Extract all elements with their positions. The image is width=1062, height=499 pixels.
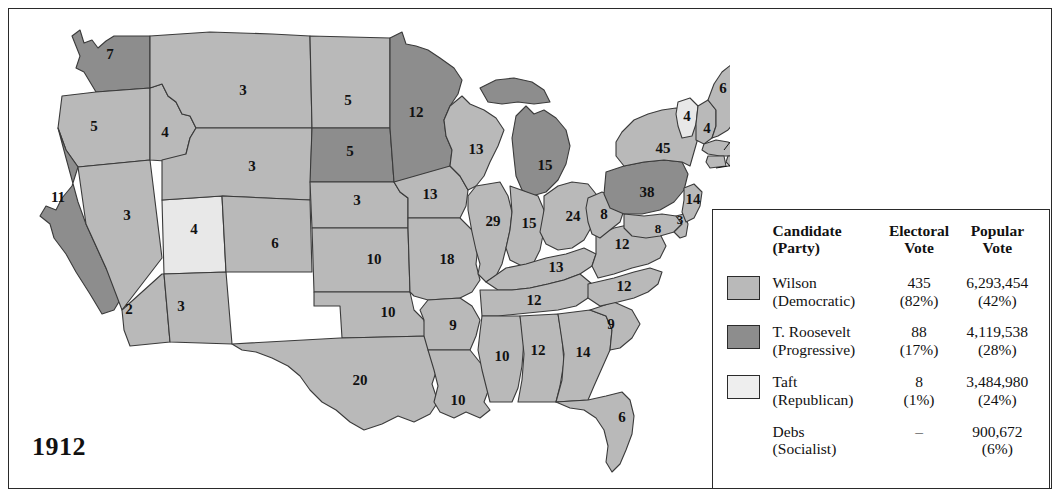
state-KS[interactable] bbox=[312, 228, 410, 292]
state-CT[interactable] bbox=[706, 156, 726, 168]
state-OK[interactable] bbox=[314, 292, 428, 338]
legend-electoral-roosevelt: 88 (17%) bbox=[882, 316, 955, 366]
legend-candidate-roosevelt: T. Roosevelt (Progressive) bbox=[769, 316, 883, 366]
legend-swatch-cell-debs bbox=[725, 416, 769, 466]
legend-popular-taft: 3,484,980 (24%) bbox=[956, 366, 1039, 416]
ev-WI: 13 bbox=[469, 141, 484, 157]
ev-NJ: 14 bbox=[686, 191, 702, 207]
legend-electoral-wilson: 435 (82%) bbox=[882, 267, 955, 317]
legend-popular-debs: 900,672 (6%) bbox=[956, 416, 1039, 466]
ev-DE: 3 bbox=[677, 212, 684, 227]
legend-candidate-taft: Taft (Republican) bbox=[769, 366, 883, 416]
legend-candidate-debs: Debs (Socialist) bbox=[769, 416, 883, 466]
ev-NH: 4 bbox=[703, 120, 711, 136]
ev-WA: 7 bbox=[106, 46, 114, 62]
ev-ND: 5 bbox=[344, 92, 352, 108]
ev-MO: 18 bbox=[440, 251, 455, 267]
state-OR[interactable] bbox=[58, 88, 150, 167]
ev-CA: 11 bbox=[51, 189, 65, 205]
taft-swatch-icon bbox=[727, 375, 760, 399]
legend-electoral-debs: – bbox=[882, 416, 955, 466]
legend-panel: Candidate (Party) Electoral Vote Popular… bbox=[712, 209, 1050, 489]
ev-FL: 6 bbox=[618, 409, 626, 425]
ev-WV: 8 bbox=[600, 206, 608, 222]
ev-NY: 45 bbox=[656, 140, 671, 156]
ev-KY: 13 bbox=[549, 259, 564, 275]
ev-CO: 6 bbox=[271, 235, 279, 251]
legend-popular-roosevelt: 4,119,538 (28%) bbox=[956, 316, 1039, 366]
legend-row-taft[interactable]: Taft (Republican) 8 (1%) 3,484,980 (24%) bbox=[725, 366, 1039, 416]
ev-LA: 10 bbox=[451, 392, 466, 408]
ev-NE: 3 bbox=[353, 192, 361, 208]
ev-IN: 15 bbox=[522, 215, 537, 231]
legend-popular-wilson: 6,293,454 (42%) bbox=[956, 267, 1039, 317]
ev-IL: 29 bbox=[486, 213, 501, 229]
ev-MN: 12 bbox=[409, 104, 424, 120]
ev-MS: 10 bbox=[495, 348, 510, 364]
ev-MT: 3 bbox=[239, 82, 247, 98]
year-label: 1912 bbox=[32, 432, 86, 462]
ev-NC: 12 bbox=[617, 278, 632, 294]
ev-NV: 3 bbox=[123, 207, 131, 223]
ev-KS: 10 bbox=[367, 251, 382, 267]
wilson-swatch-icon bbox=[727, 276, 760, 300]
state-CO[interactable] bbox=[222, 196, 312, 272]
state-ND[interactable] bbox=[310, 36, 390, 128]
legend-table: Candidate (Party) Electoral Vote Popular… bbox=[725, 222, 1039, 465]
ev-VT: 4 bbox=[683, 108, 691, 124]
ev-MD: 8 bbox=[655, 221, 662, 236]
roosevelt-swatch-icon bbox=[727, 325, 760, 349]
ev-OK: 10 bbox=[381, 304, 396, 320]
legend-header-swatch bbox=[725, 222, 769, 267]
ev-OR: 5 bbox=[90, 118, 98, 134]
ev-VA: 12 bbox=[615, 236, 630, 252]
ev-NM: 3 bbox=[177, 298, 185, 314]
legend-swatch-cell-wilson bbox=[725, 267, 769, 317]
legend-header-candidate: Candidate (Party) bbox=[769, 222, 883, 267]
ev-AZ: 2 bbox=[125, 301, 133, 317]
ev-MI: 15 bbox=[538, 157, 553, 173]
legend-header-row: Candidate (Party) Electoral Vote Popular… bbox=[725, 222, 1039, 267]
state-NM[interactable] bbox=[164, 272, 232, 344]
legend-candidate-wilson: Wilson (Democratic) bbox=[769, 267, 883, 317]
legend-swatch-cell-taft bbox=[725, 366, 769, 416]
legend-swatch-cell-roosevelt bbox=[725, 316, 769, 366]
state-MD[interactable] bbox=[624, 214, 682, 238]
ev-AR: 9 bbox=[449, 317, 457, 333]
ev-IA: 13 bbox=[423, 186, 438, 202]
legend-row-roosevelt[interactable]: T. Roosevelt (Progressive) 88 (17%) 4,11… bbox=[725, 316, 1039, 366]
ev-OH: 24 bbox=[566, 208, 582, 224]
ev-SC: 9 bbox=[607, 316, 615, 332]
ev-WY: 3 bbox=[248, 158, 256, 174]
ev-PA: 38 bbox=[640, 184, 655, 200]
election-map-figure: 7 5 11 3 4 4 2 3 3 3 6 5 5 3 10 10 20 12… bbox=[0, 0, 1062, 499]
legend-header-popular: Popular Vote bbox=[956, 222, 1039, 267]
ev-SD: 5 bbox=[346, 143, 354, 159]
legend-row-wilson[interactable]: Wilson (Democratic) 435 (82%) 6,293,454 … bbox=[725, 267, 1039, 317]
map-svg: 7 5 11 3 4 4 2 3 3 3 6 5 5 3 10 10 20 12… bbox=[10, 10, 730, 480]
ev-TN: 12 bbox=[527, 292, 542, 308]
ev-ME: 6 bbox=[719, 80, 727, 96]
ev-ID: 4 bbox=[161, 124, 169, 140]
ev-AL: 12 bbox=[531, 342, 546, 358]
legend-header-electoral: Electoral Vote bbox=[882, 222, 955, 267]
state-TX[interactable] bbox=[232, 336, 438, 430]
us-electoral-map: 7 5 11 3 4 4 2 3 3 3 6 5 5 3 10 10 20 12… bbox=[10, 10, 730, 480]
state-RI[interactable] bbox=[726, 156, 730, 166]
ev-TX: 20 bbox=[353, 372, 368, 388]
state-FL[interactable] bbox=[556, 392, 634, 472]
legend-row-debs[interactable]: Debs (Socialist) – 900,672 (6%) bbox=[725, 416, 1039, 466]
ev-UT: 4 bbox=[190, 221, 198, 237]
ev-GA: 14 bbox=[576, 344, 592, 360]
legend-electoral-taft: 8 (1%) bbox=[882, 366, 955, 416]
